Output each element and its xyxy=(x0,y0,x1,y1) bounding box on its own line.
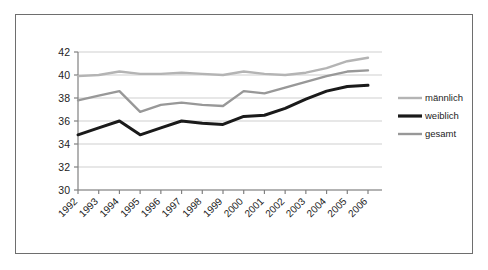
y-tick-label: 36 xyxy=(58,115,70,127)
x-tick-label: 2000 xyxy=(222,195,246,219)
legend-label-weiblich: weiblich xyxy=(424,110,459,121)
x-tick-label: 1994 xyxy=(97,195,121,219)
legend-label-männlich: männlich xyxy=(425,92,463,103)
y-tick-label: 38 xyxy=(58,92,70,104)
x-tick-label: 2006 xyxy=(346,195,370,219)
x-tick-label: 2005 xyxy=(325,195,349,219)
y-tick-label: 40 xyxy=(58,69,70,81)
line-chart: 3032343638404219921993199419951996199719… xyxy=(0,0,488,270)
x-tick-label: 2004 xyxy=(304,195,328,219)
y-tick-label: 42 xyxy=(58,46,70,58)
series-line-männlich xyxy=(78,58,368,76)
x-tick-label: 1993 xyxy=(77,195,101,219)
y-tick-label: 32 xyxy=(58,161,70,173)
legend-label-gesamt: gesamt xyxy=(425,128,457,139)
figure-root: 3032343638404219921993199419951996199719… xyxy=(0,0,488,270)
x-tick-label: 1995 xyxy=(118,195,142,219)
x-tick-label: 1999 xyxy=(201,195,225,219)
x-axis: 1992199319941995199619971998199920002001… xyxy=(56,190,370,219)
y-tick-label: 30 xyxy=(58,184,70,196)
x-tick-label: 1997 xyxy=(159,195,183,219)
legend: männlichweiblichgesamt xyxy=(398,92,463,139)
x-tick-label: 2002 xyxy=(263,195,287,219)
x-tick-label: 2001 xyxy=(242,195,266,219)
x-tick-label: 1998 xyxy=(180,195,204,219)
y-axis: 30323436384042 xyxy=(58,46,78,196)
x-tick-label: 2003 xyxy=(284,195,308,219)
x-tick-label: 1996 xyxy=(139,195,163,219)
x-tick-label: 1992 xyxy=(56,195,80,219)
series-group xyxy=(78,58,368,135)
y-tick-label: 34 xyxy=(58,138,70,150)
